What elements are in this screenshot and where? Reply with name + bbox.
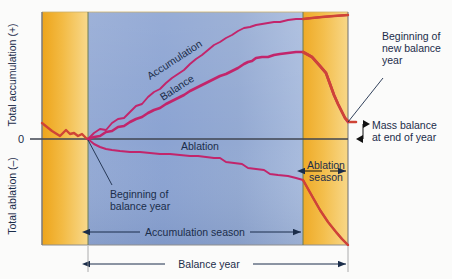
annotation-balance-year: Balance year [88,246,348,272]
beginning-new-balance-year-line3: year [382,54,403,66]
balance-year-label: Balance year [178,258,240,270]
y-axis-upper-label: Total accumulation (+) [6,23,18,126]
ablation-season-line2: season [309,171,343,183]
beginning-balance-year-line2: balance year [110,200,171,212]
mass-balance-line2: at end of year [372,131,437,143]
beginning-balance-year-line1: Beginning of [110,188,168,200]
y-axis-zero-tick: 0 [18,133,24,145]
annotation-beginning-new-balance-year: Beginning of new balance year [348,30,441,122]
beginning-new-balance-year-line1: Beginning of [382,30,440,42]
mass-balance-line1: Mass balance [372,119,437,131]
mass-balance-chart: 0 Total accumulation (+) Total ablation … [0,0,452,279]
annotation-mass-balance-end-of-year: Mass balance at end of year [363,119,437,143]
curve-label-ablation: Ablation [181,140,219,152]
figure-canvas: 0 Total accumulation (+) Total ablation … [0,0,452,279]
annotation-ablation-season: Ablation season [305,159,346,183]
y-axis-lower-label: Total ablation (–) [6,157,18,235]
band-ablation-season-grad [303,12,348,245]
accumulation-season-label: Accumulation season [145,226,245,238]
ablation-season-line1: Ablation [307,159,345,171]
beginning-new-balance-year-line2: new balance [382,42,441,54]
